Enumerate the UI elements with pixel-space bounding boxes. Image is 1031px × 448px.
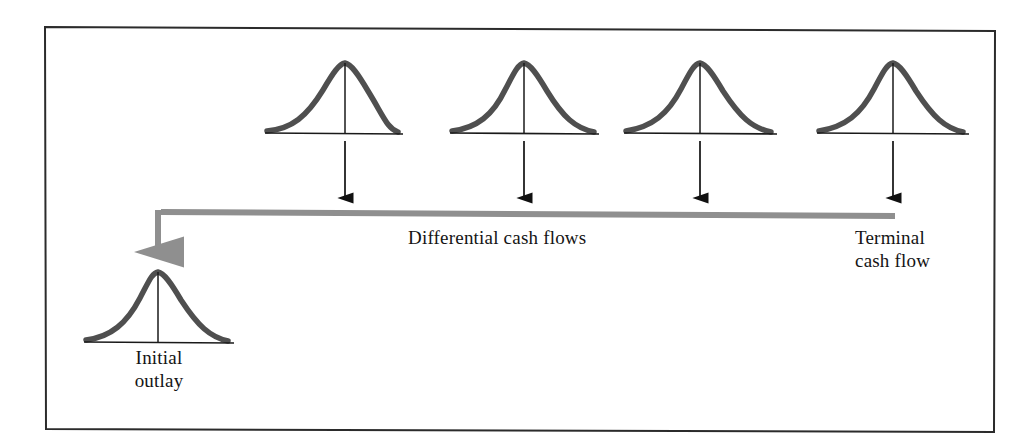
curve-baseline-1 [265,133,403,134]
label-differential-cash-flows: Differential cash flows [408,226,586,249]
figure-root: Differential cash flows Terminal cash fl… [0,0,1031,448]
bell-curve-path-4 [819,63,963,132]
curve-baseline-2 [450,133,599,134]
bell-curve-path-1 [267,63,398,132]
curve-baseline-4 [817,133,969,134]
distribution-curve-2 [450,63,599,134]
distribution-curve-3 [624,63,777,134]
distribution-curve-4 [817,63,969,134]
label-terminal-cash-flow: Terminal cash flow [855,226,930,272]
bell-curve-path-initial [86,272,228,341]
label-initial-outlay: Initial outlay [112,346,206,392]
bell-curve-path-3 [626,63,771,132]
curve-baseline-3 [624,133,777,134]
curve-baseline-initial [84,342,234,343]
bell-curve-path-2 [452,63,594,132]
distribution-curve-initial-outlay [84,272,234,343]
cash-flow-timeline [161,212,895,216]
distribution-curve-1 [265,63,403,134]
